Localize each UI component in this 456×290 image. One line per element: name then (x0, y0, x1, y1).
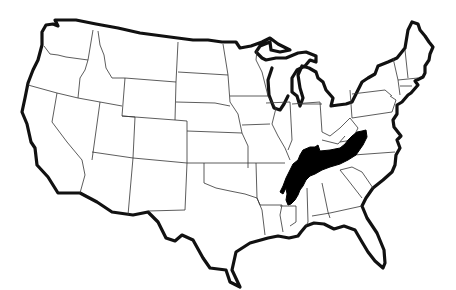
highlighted-region (280, 130, 367, 205)
lake-michigan-shore (268, 68, 288, 110)
us-map (0, 0, 456, 290)
